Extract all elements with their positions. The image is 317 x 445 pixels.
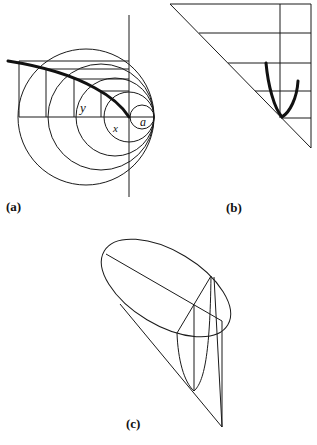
- var-a-label: a: [140, 115, 146, 130]
- panel-b-label: (b): [226, 200, 242, 216]
- panel-c-diagram: [85, 219, 247, 427]
- panel-b-diagram: [170, 4, 311, 148]
- figure-canvas: [0, 0, 317, 445]
- parabola-curve: [266, 63, 298, 117]
- elliptical-section: [85, 219, 247, 357]
- cone-generator-right: [214, 277, 222, 427]
- panel-c-label: (c): [126, 416, 140, 432]
- cone-tangent-left: [120, 304, 222, 427]
- triangle-hypotenuse: [170, 4, 311, 148]
- var-x-label: x: [113, 122, 118, 134]
- var-y-label: y: [80, 100, 86, 116]
- panel-a-label: (a): [6, 199, 21, 215]
